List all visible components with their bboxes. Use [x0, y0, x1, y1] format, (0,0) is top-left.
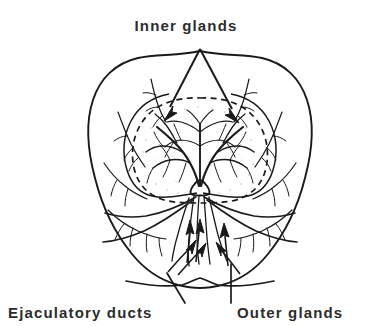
outer-glands-label: Outer glands — [237, 304, 343, 321]
ejaculatory-ducts-label: Ejaculatory ducts — [8, 304, 153, 321]
inner-glands-pointer — [164, 49, 239, 123]
ejaculatory-duct-arrows-right — [216, 223, 240, 274]
ejaculatory-duct-arrows-left — [168, 219, 206, 275]
ejaculatory-ducts-leader — [167, 273, 185, 303]
inner-glands-label: Inner glands — [135, 17, 238, 34]
outer-gland-ducts-left — [104, 79, 166, 256]
outer-gland-ducts-right — [234, 79, 296, 256]
capsule-lower-notch — [126, 278, 274, 286]
prostate-diagram: Prostate cross-section showing inner and… — [0, 0, 372, 326]
